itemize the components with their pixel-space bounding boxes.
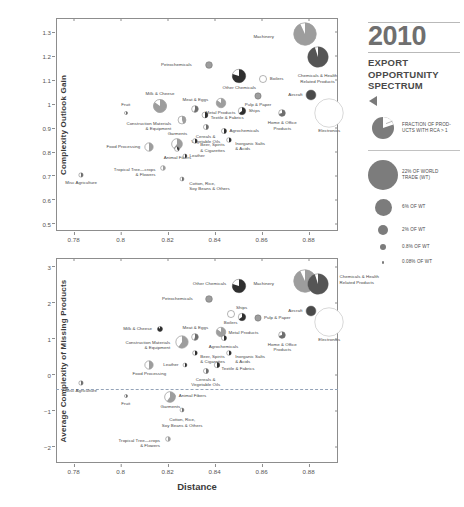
bubble-construction-materials[interactable] bbox=[176, 335, 189, 348]
bubble-machinery[interactable] bbox=[294, 22, 317, 45]
bubble-label: Misc Agriculture bbox=[53, 388, 109, 393]
legend-size-label: 22% OF WORLD TRADE (WT) bbox=[402, 169, 438, 181]
x-tick-label: 0.86 bbox=[256, 236, 268, 243]
bubble-label: Other Chemicals bbox=[211, 85, 267, 90]
bubble-beer-spirits[interactable] bbox=[193, 350, 198, 355]
legend-pie-note: FRACTION OF PROD- UCTS WITH RCA > 1 bbox=[402, 122, 451, 134]
bubble-electronics[interactable] bbox=[315, 98, 344, 127]
x-tick-label: 0.84 bbox=[209, 236, 221, 243]
bubble-misc-agriculture[interactable] bbox=[79, 380, 84, 385]
bubble-food-processing[interactable] bbox=[145, 142, 154, 151]
bubble-label: Garments bbox=[149, 131, 205, 136]
bubble-milk-cheese[interactable] bbox=[157, 326, 163, 332]
y-tick-label: −1 bbox=[44, 407, 51, 414]
x-tick-label: 0.82 bbox=[162, 468, 174, 475]
x-tick-top bbox=[167, 18, 168, 21]
bubble-meat-eggs[interactable] bbox=[192, 334, 199, 341]
bubble-boilers[interactable] bbox=[259, 75, 267, 83]
legend-size-label: 0.8% OF WT bbox=[402, 244, 430, 250]
bubble-tropical-tree-crops[interactable] bbox=[166, 436, 171, 441]
bubble-milk-cheese[interactable] bbox=[153, 99, 167, 113]
bubble-pulp-paper[interactable] bbox=[255, 92, 262, 99]
y-tick-label: 2 bbox=[48, 299, 51, 306]
y-tick-right bbox=[335, 223, 338, 224]
bubble-meat-eggs[interactable] bbox=[192, 106, 199, 113]
bubble-label: Fruit bbox=[98, 401, 154, 406]
bubble-textile-fabrics[interactable] bbox=[214, 362, 220, 368]
bubble-label: Home & Office Products bbox=[254, 342, 310, 353]
bubble-boilers[interactable] bbox=[227, 311, 235, 319]
x-tick-top bbox=[308, 258, 309, 261]
x-tick-top bbox=[214, 258, 215, 261]
x-tick-label: 0.8 bbox=[116, 468, 125, 475]
bubble-other-chemicals[interactable] bbox=[232, 69, 246, 83]
bubble-chemicals-health[interactable] bbox=[307, 274, 328, 295]
bubble-cotton-rice[interactable] bbox=[180, 408, 184, 412]
x-tick-label: 0.86 bbox=[256, 468, 268, 475]
bubble-agrochemicals[interactable] bbox=[221, 128, 227, 134]
x-tick-top bbox=[214, 18, 215, 21]
y-tick-label: 1 bbox=[48, 101, 51, 108]
bubble-other-chemicals[interactable] bbox=[232, 279, 246, 293]
y-tick-right bbox=[335, 175, 338, 176]
bubble-chemicals-health[interactable] bbox=[307, 47, 328, 68]
bubble-cereals[interactable] bbox=[203, 124, 209, 130]
y-tick-right bbox=[335, 446, 338, 447]
bubble-home-office[interactable] bbox=[279, 110, 286, 117]
legend-size-circle bbox=[368, 199, 398, 216]
bubble-leather[interactable] bbox=[182, 363, 186, 367]
bubble-label: Other Chemicals bbox=[170, 281, 226, 286]
bubble-label: Misc Agriculture bbox=[53, 180, 109, 185]
x-tick-label: 0.88 bbox=[303, 468, 315, 475]
bubble-animal-fibers[interactable] bbox=[175, 147, 180, 152]
left-triangle-icon[interactable] bbox=[369, 96, 377, 106]
legend-size-circle bbox=[368, 225, 398, 235]
bubble-garments[interactable] bbox=[165, 392, 176, 403]
bubble-label: Meat & Eggs bbox=[167, 325, 223, 330]
bubble-tropical-tree-crops[interactable] bbox=[161, 165, 166, 170]
legend-size-row: 2% OF WT bbox=[368, 225, 460, 235]
x-tick-top bbox=[261, 258, 262, 261]
bubble-ships[interactable] bbox=[238, 107, 246, 115]
y-tick-right bbox=[335, 56, 338, 57]
y-tick-right bbox=[335, 199, 338, 200]
bubble-label: Machinery bbox=[218, 34, 274, 39]
bubble-petrochemicals[interactable] bbox=[205, 61, 212, 68]
bubble-label: Tropical Tree—crops & Flowers bbox=[104, 438, 160, 449]
bubble-home-office[interactable] bbox=[279, 331, 286, 338]
panel-subtitle: EXPORT OPPORTUNITY SPECTRUM bbox=[368, 53, 460, 91]
legend-size-circle bbox=[368, 244, 398, 250]
bubble-petrochemicals[interactable] bbox=[205, 295, 212, 302]
bubble-label: Ships bbox=[249, 108, 305, 113]
y-tick-right bbox=[335, 266, 338, 267]
bubble-construction-materials[interactable] bbox=[178, 116, 186, 124]
bubble-label: Beer, Spirits & Cigarettes bbox=[200, 354, 256, 365]
year-title: 2010 bbox=[368, 23, 460, 49]
bubble-label: Petrochemicals bbox=[137, 296, 193, 301]
bubble-label: Ships bbox=[214, 305, 270, 310]
bubble-fruit[interactable] bbox=[124, 111, 128, 115]
export-opportunity-spectrum-figure: Complexity Outlook Gain 0.50.60.70.80.91… bbox=[0, 0, 464, 507]
y-tick-right bbox=[335, 374, 338, 375]
bubble-textile-fabrics[interactable] bbox=[202, 112, 208, 118]
bubble-misc-agriculture[interactable] bbox=[79, 173, 84, 178]
bubble-ships[interactable] bbox=[238, 313, 246, 321]
legend-size-row: 0.8% OF WT bbox=[368, 244, 460, 250]
bubble-cotton-rice[interactable] bbox=[180, 177, 184, 181]
bubble-cereals[interactable] bbox=[203, 368, 209, 374]
y-tick-right bbox=[335, 410, 338, 411]
x-tick-label: 0.88 bbox=[303, 236, 315, 243]
y-axis-label-bottom: Average Complexity of Missing Products bbox=[59, 279, 68, 442]
bubble-label: Tropical Tree—crops & Flowers bbox=[99, 167, 155, 178]
bubble-pulp-paper[interactable] bbox=[255, 315, 262, 322]
bubble-electronics[interactable] bbox=[315, 307, 344, 336]
bubble-agrochemicals[interactable] bbox=[221, 335, 227, 341]
bubble-label: Cotton, Rice, Soy Beans & Others bbox=[154, 417, 210, 428]
y-tick-label: 1.1 bbox=[42, 77, 51, 84]
bubble-beer-spirits[interactable] bbox=[193, 139, 198, 144]
bubble-fruit[interactable] bbox=[124, 394, 128, 398]
bubble-label: Leather bbox=[123, 362, 179, 367]
legend-size-row: 6% OF WT bbox=[368, 199, 460, 216]
bubble-leather[interactable] bbox=[182, 154, 186, 158]
bubble-label: Milk & Cheese bbox=[96, 326, 152, 331]
